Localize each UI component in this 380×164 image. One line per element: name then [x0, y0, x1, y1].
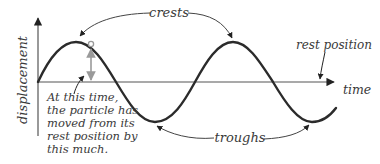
trough-arrow-right-icon [264, 125, 309, 139]
rest-position-label: rest position [296, 38, 372, 52]
svg-text:rest position by: rest position by [47, 129, 138, 143]
svg-text:this much.: this much. [47, 142, 108, 156]
rest-position-arrow-icon [320, 52, 325, 79]
annotation-text: At this time, the particle has moved fro… [46, 90, 138, 156]
svg-text:moved from its: moved from its [47, 116, 135, 130]
particle-point-marker [88, 41, 93, 46]
crest-arrow-right-icon [188, 13, 232, 38]
troughs-label: troughs [214, 130, 265, 145]
trough-arrow-left-icon [157, 126, 214, 138]
svg-text:the particle has: the particle has [47, 103, 138, 117]
y-axis-label: displacement [15, 35, 30, 124]
x-axis-label: time [343, 82, 371, 97]
svg-text:At this time,: At this time, [46, 90, 118, 104]
crest-arrow-left-icon [80, 13, 150, 36]
crests-label: crests [149, 5, 189, 20]
wave-diagram: displacement time crests troughs rest po… [0, 0, 380, 164]
